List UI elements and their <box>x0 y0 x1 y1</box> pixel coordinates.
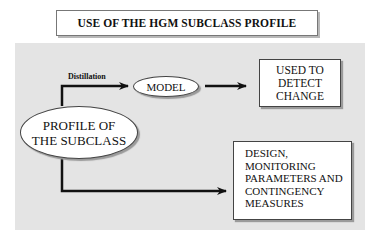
design-line: DESIGN, <box>245 147 351 160</box>
design-box: DESIGN, MONITORING PARAMETERS AND CONTIN… <box>233 141 352 220</box>
profile-line: PROFILE OF <box>32 118 126 133</box>
model-node: MODEL <box>133 76 199 97</box>
design-line: PARAMETERS AND <box>245 172 351 185</box>
detect-change-box: USED TO DETECT CHANGE <box>259 59 341 107</box>
profile-line: THE SUBCLASS <box>32 133 126 148</box>
change-line: USED TO <box>276 64 324 77</box>
design-line: MONITORING <box>245 160 351 173</box>
profile-node: PROFILE OF THE SUBCLASS <box>20 106 138 159</box>
model-label: MODEL <box>146 81 185 93</box>
design-line: CONTINGENCY <box>245 185 351 198</box>
change-line: DETECT <box>276 77 324 90</box>
change-line: CHANGE <box>276 90 324 103</box>
distillation-label: Distillation <box>68 72 106 81</box>
design-line: MEASURES <box>245 197 351 210</box>
distillation-arrow <box>62 86 128 106</box>
profile-to-design-arrow <box>62 157 226 191</box>
